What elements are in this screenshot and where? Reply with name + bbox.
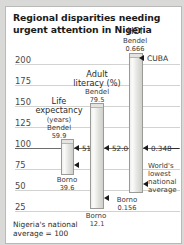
- life-bottom-region: Borno: [42, 176, 92, 184]
- bar-hdi: [129, 53, 143, 193]
- literacy-gap-value: 52.0: [112, 145, 128, 153]
- life-top-region: Bendel: [33, 124, 85, 132]
- world-low-line1: World's: [148, 162, 182, 170]
- hdi-label-line1: HDI: [110, 27, 160, 36]
- literacy-gap-arrow-up: [104, 145, 109, 151]
- life-gap-arrow-up: [74, 145, 79, 151]
- ytick-125: 125: [15, 119, 31, 128]
- hdi-top-region: Bendel: [110, 37, 160, 45]
- literacy-bottom-region: Borno: [68, 212, 124, 220]
- bar-life-cap: [62, 140, 73, 144]
- ytick-50: 50: [15, 182, 26, 191]
- ytick-200: 200: [15, 56, 31, 65]
- life-bottom-value: 39.6: [50, 184, 84, 192]
- hdi-gap-value: 0.348: [151, 145, 172, 153]
- world-low-line3: national: [148, 178, 182, 186]
- world-low-line4: average: [148, 186, 182, 194]
- ytick-100: 100: [15, 140, 31, 149]
- bar-literacy-cap: [91, 104, 103, 108]
- world-low-line2: lowest: [148, 170, 182, 178]
- hdi-top-value: 0.666: [116, 45, 154, 53]
- bar-adult-literacy: [90, 103, 104, 209]
- hdi-gap-dash: [168, 148, 179, 149]
- ytick-75: 75: [15, 161, 26, 170]
- gridline-200: [15, 64, 180, 65]
- literacy-label-line2: literacy (%): [64, 79, 130, 88]
- literacy-top-region: Bendel: [70, 88, 124, 96]
- ytick-175: 175: [15, 77, 31, 86]
- cuba-label: CUBA: [147, 55, 168, 63]
- life-gap-arrow-down: [74, 162, 79, 168]
- ytick-25: 25: [15, 203, 26, 212]
- hdi-gap-arrow-left: [143, 145, 148, 151]
- hdi-bottom-region: Borno: [106, 196, 148, 204]
- hdi-bottom-value: 0.156: [110, 204, 144, 212]
- cuba-marker-arrow: [139, 55, 144, 61]
- chart-footnote: Nigeria's national average = 100: [13, 220, 93, 238]
- life-label-line3: (years): [33, 116, 85, 124]
- chart-panel: Regional disparities needing urgent atte…: [5, 6, 182, 244]
- life-label-line2: expectancy: [26, 106, 92, 115]
- bar-life-expectancy: [61, 139, 74, 175]
